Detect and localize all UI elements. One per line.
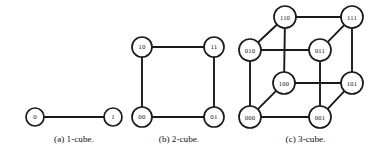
node-label-001: 001 — [315, 114, 326, 121]
edges-layer — [44, 17, 353, 117]
node-00[interactable]: 00 — [132, 107, 152, 127]
node-100[interactable]: 100 — [273, 72, 295, 94]
node-label-10: 10 — [138, 43, 146, 51]
edge-110-010 — [258, 24, 278, 43]
node-label-000: 000 — [245, 114, 256, 121]
node-label-00: 00 — [138, 113, 146, 121]
caption-2-cube: (b) 2-cube. — [120, 134, 238, 144]
cube-graphs-figure: 0110110001110111010011100101000001 (a) 1… — [0, 0, 383, 155]
node-111[interactable]: 111 — [341, 6, 363, 28]
node-label-0: 0 — [33, 113, 37, 121]
nodes-layer: 0110110001110111010011100101000001 — [26, 6, 363, 128]
node-1[interactable]: 1 — [104, 108, 122, 126]
node-011[interactable]: 011 — [309, 39, 331, 61]
node-label-010: 010 — [245, 47, 256, 54]
edge-100-000 — [257, 90, 276, 109]
node-label-11: 11 — [210, 43, 217, 51]
node-10[interactable]: 10 — [132, 37, 152, 57]
node-label-101: 101 — [347, 80, 358, 87]
graph-canvas: 0110110001110111010011100101000001 — [0, 0, 383, 155]
node-label-100: 100 — [279, 80, 290, 87]
node-11[interactable]: 11 — [204, 37, 224, 57]
node-101[interactable]: 101 — [341, 72, 363, 94]
node-0[interactable]: 0 — [26, 108, 44, 126]
edge-101-001 — [327, 91, 345, 110]
node-label-1: 1 — [111, 113, 115, 121]
edge-110-100 — [284, 28, 285, 73]
node-label-111: 111 — [347, 14, 357, 21]
caption-3-cube: (c) 3-cube. — [228, 134, 383, 144]
node-000[interactable]: 000 — [239, 106, 261, 128]
node-110[interactable]: 110 — [274, 6, 296, 28]
node-label-011: 011 — [315, 47, 325, 54]
node-001[interactable]: 001 — [309, 106, 331, 128]
node-label-01: 01 — [210, 113, 218, 121]
edge-111-011 — [327, 25, 344, 43]
node-01[interactable]: 01 — [204, 107, 224, 127]
node-010[interactable]: 010 — [239, 39, 261, 61]
node-label-110: 110 — [280, 14, 291, 21]
